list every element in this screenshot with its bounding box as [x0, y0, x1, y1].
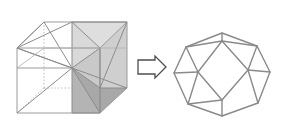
dodecahedron-spoke-left — [174, 72, 198, 73]
figure-container: Cube dissection transforming into a rhom… — [0, 0, 286, 128]
geometry-diagram: Cube dissection transforming into a rhom… — [0, 0, 286, 128]
